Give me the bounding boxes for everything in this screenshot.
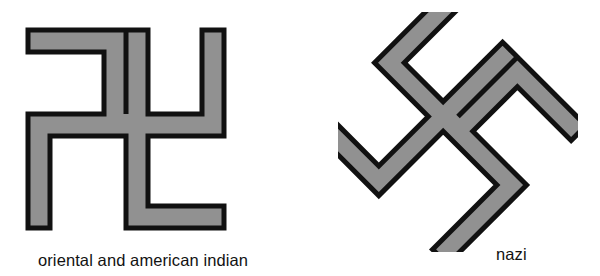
panel-oriental: oriental and american indian — [10, 8, 300, 276]
caption-nazi: nazi — [496, 246, 527, 263]
swastika-rotation-group — [338, 12, 578, 252]
swastika-right-facing-rotated-icon — [338, 12, 578, 252]
panel-nazi: nazi — [310, 8, 600, 276]
figure-symbol-comparison: oriental and american indian nazi — [0, 0, 600, 276]
swastika-left-facing-icon-clean — [22, 22, 252, 237]
swastika-right-facing-outline — [338, 12, 578, 252]
swastika-left-facing-outline — [28, 30, 224, 228]
swastika-left-facing-group — [28, 30, 224, 228]
caption-oriental: oriental and american indian — [38, 252, 248, 269]
